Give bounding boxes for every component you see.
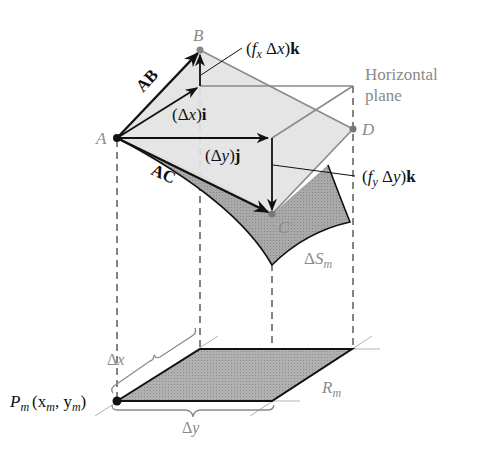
label-b: B: [193, 26, 204, 45]
surface-area-diagram: A B D C AB AC (Δx)i (Δy)j (fx Δx)k (fy Δ…: [0, 0, 480, 449]
point-c: [269, 211, 276, 218]
point-pm: [113, 397, 122, 406]
point-a: [113, 134, 121, 142]
label-fy-k: (fy Δy)k: [362, 167, 416, 189]
label-delta-s-m: ΔSm: [304, 249, 332, 271]
label-c: C: [278, 218, 290, 237]
point-b: [197, 47, 204, 54]
label-pm: Pm(xm, ym): [9, 392, 86, 414]
label-horizontal: Horizontal: [365, 65, 438, 84]
label-brace-dx: Δx: [107, 351, 124, 368]
label-fx-k: (fx Δx)k: [246, 39, 300, 61]
label-dy-j: (Δy)j: [205, 146, 240, 165]
label-vector-ab: AB: [132, 65, 162, 95]
point-d: [350, 126, 357, 133]
label-dx-i: (Δx)i: [172, 105, 207, 124]
label-plane: plane: [365, 86, 402, 105]
label-a: A: [95, 129, 107, 148]
label-brace-dy: Δy: [182, 419, 200, 437]
region-r-m: [117, 349, 352, 401]
brace-dy: [112, 405, 274, 417]
label-d: D: [361, 120, 375, 139]
label-r-m: Rm: [321, 378, 341, 400]
